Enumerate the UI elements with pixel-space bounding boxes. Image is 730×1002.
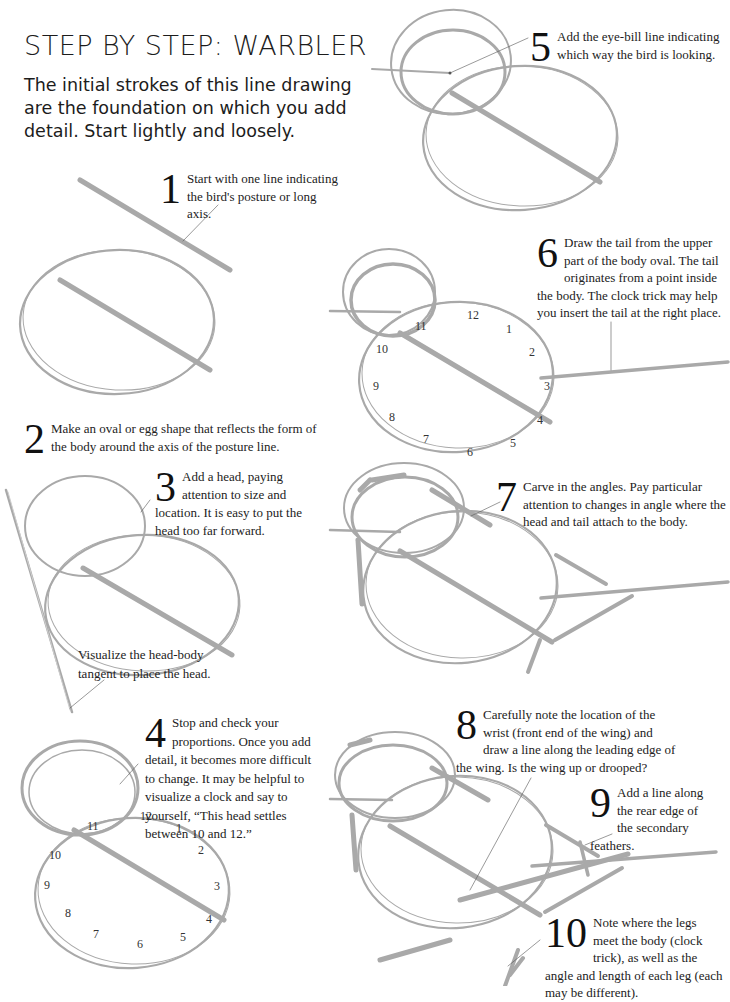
svg-text:5: 5	[510, 436, 516, 450]
step-6: 6 Draw the tail from the upper part of t…	[537, 234, 722, 322]
step-number: 4	[145, 716, 166, 750]
svg-text:2: 2	[198, 843, 204, 857]
step-7: 7 Carve in the angles. Pay particular at…	[496, 478, 726, 531]
step-text: Add the eye-bill line indicating which w…	[557, 29, 719, 62]
step-8: 8 Carefully note the location of the wri…	[456, 706, 681, 776]
intro-paragraph: The initial strokes of this line drawing…	[24, 74, 384, 143]
svg-text:7: 7	[423, 432, 429, 446]
step-1: 1 Start with one line indicating the bir…	[160, 170, 340, 223]
step-number: 5	[530, 30, 551, 64]
page-title: STEP BY STEP: WARBLER	[24, 30, 367, 61]
svg-text:12: 12	[467, 308, 479, 322]
svg-text:3: 3	[544, 379, 550, 393]
svg-text:8: 8	[65, 906, 71, 920]
svg-text:7: 7	[93, 927, 99, 941]
step-5: 5 Add the eye-bill line indicating which…	[530, 28, 720, 64]
svg-text:9: 9	[373, 379, 379, 393]
step-9: 9 Add a line along the rear edge of the …	[590, 784, 710, 854]
step-3: 3 Add a head, paying attention to size a…	[155, 468, 305, 540]
step-number: 7	[496, 480, 517, 514]
svg-text:11: 11	[415, 319, 427, 333]
step-number: 6	[537, 236, 558, 270]
svg-text:6: 6	[137, 937, 143, 951]
step-text: Make an oval or egg shape that reflects …	[51, 421, 317, 454]
svg-text:5: 5	[180, 930, 186, 944]
svg-text:6: 6	[467, 445, 473, 459]
svg-text:9: 9	[44, 878, 50, 892]
step2-body-oval	[18, 245, 219, 397]
svg-text:1: 1	[506, 322, 512, 336]
svg-text:4: 4	[537, 413, 543, 427]
step-text: Draw the tail from the upper part of the…	[537, 235, 721, 320]
step-text: Start with one line indicating the bird'…	[187, 171, 338, 221]
step-number: 9	[590, 786, 611, 820]
svg-text:4: 4	[206, 912, 212, 926]
step-text: Add a head, paying attention to size and…	[155, 469, 302, 538]
svg-text:10: 10	[376, 342, 388, 356]
step-text: Carefully note the location of the wrist…	[456, 707, 675, 775]
svg-text:8: 8	[389, 410, 395, 424]
step-number: 8	[456, 708, 477, 742]
step-number: 2	[24, 422, 45, 456]
svg-text:11: 11	[87, 819, 99, 833]
step-number: 10	[545, 916, 587, 950]
step-number: 1	[160, 172, 181, 206]
svg-text:2: 2	[529, 345, 535, 359]
step-text: Carve in the angles. Pay particular atte…	[523, 479, 726, 529]
step-2: 2 Make an oval or egg shape that reflect…	[24, 420, 324, 456]
tangent-note: Visualize the head-body tangent to place…	[78, 645, 218, 683]
svg-text:3: 3	[214, 879, 220, 893]
step-10: 10 Note where the legs meet the body (cl…	[545, 914, 725, 1002]
step-number: 3	[155, 470, 176, 504]
svg-text:10: 10	[49, 848, 61, 862]
step-4: 4 Stop and check your proportions. Once …	[145, 714, 315, 844]
step-text: Stop and check your proportions. Once yo…	[145, 715, 311, 841]
